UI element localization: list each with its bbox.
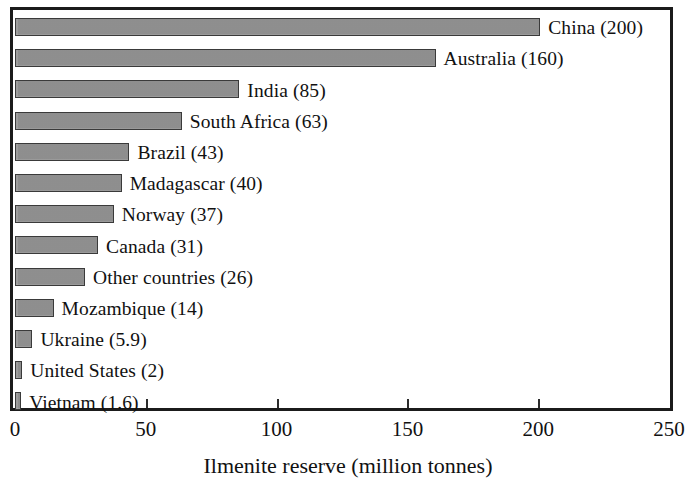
bar-row: Other countries (26) (13, 262, 670, 293)
x-axis-tick-label: 150 (392, 416, 424, 442)
bar (15, 299, 54, 317)
x-axis-tick-label: 0 (10, 416, 21, 442)
bar-value-label: South Africa (63) (190, 112, 328, 131)
bar (15, 205, 114, 223)
bar-row: Madagascar (40) (13, 168, 670, 199)
bar-value-label: Australia (160) (444, 49, 564, 68)
x-axis-tick (146, 399, 148, 408)
bar (15, 236, 98, 254)
bar-value-label: India (85) (247, 81, 325, 100)
bar-row: India (85) (13, 74, 670, 105)
bar (15, 392, 21, 410)
bar-row: Ukraine (5.9) (13, 324, 670, 355)
x-axis-tick-label: 200 (522, 416, 554, 442)
bar-row: China (200) (13, 12, 670, 43)
bar-row: Vietnam (1.6) (13, 386, 670, 417)
bar-row: Australia (160) (13, 43, 670, 74)
bar-value-label: Other countries (26) (93, 268, 253, 287)
x-axis-tick-label: 250 (653, 416, 685, 442)
bar-row: Norway (37) (13, 199, 670, 230)
bar-value-label: Brazil (43) (137, 143, 223, 162)
x-axis-tick-label: 100 (261, 416, 293, 442)
plot-inner: China (200)Australia (160)India (85)Sout… (13, 10, 670, 408)
bar-row: South Africa (63) (13, 106, 670, 137)
x-axis-tick-labels: 050100150200250 (0, 416, 696, 444)
plot-area: China (200)Australia (160)India (85)Sout… (10, 7, 673, 411)
bar-value-label: Ukraine (5.9) (40, 330, 146, 349)
bar (15, 49, 436, 67)
bar-value-label: China (200) (548, 18, 643, 37)
bar-value-label: Canada (31) (106, 237, 203, 256)
bar-value-label: Vietnam (1.6) (29, 393, 139, 412)
bar-row: Brazil (43) (13, 137, 670, 168)
bar-value-label: United States (2) (30, 361, 164, 380)
ilmenite-reserve-bar-chart: China (200)Australia (160)India (85)Sout… (0, 0, 696, 491)
bar-row: United States (2) (13, 355, 670, 386)
bar (15, 361, 22, 379)
bar (15, 80, 239, 98)
bar (15, 112, 182, 130)
bar (15, 174, 122, 192)
bar-row: Mozambique (14) (13, 293, 670, 324)
bar-value-label: Norway (37) (122, 205, 223, 224)
bar-row: Canada (31) (13, 230, 670, 261)
x-axis-tick (277, 399, 279, 408)
bar-value-label: Mozambique (14) (62, 299, 204, 318)
bar-value-label: Madagascar (40) (130, 174, 263, 193)
x-axis-tick-label: 50 (135, 416, 156, 442)
bar (15, 330, 32, 348)
x-axis-title: Ilmenite reserve (million tonnes) (0, 452, 696, 480)
x-axis-tick (407, 399, 409, 408)
bar (15, 143, 129, 161)
bar (15, 18, 540, 36)
bar (15, 268, 85, 286)
x-axis-tick (538, 399, 540, 408)
